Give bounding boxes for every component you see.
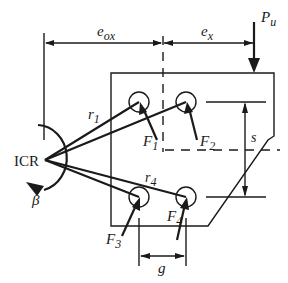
force-f2-line [189, 108, 197, 140]
eox-arrow-right-icon [153, 40, 162, 46]
eox-arrow-left-icon [45, 40, 54, 46]
ex-arrow-right-icon [244, 40, 253, 46]
f4-label: F4 [166, 208, 182, 228]
g-label: g [158, 260, 166, 276]
eox-label: eox [97, 23, 116, 43]
f3-label: F3 [105, 231, 121, 251]
ex-arrow-left-icon [164, 40, 173, 46]
diagram-canvas: eox ex Pu r1 r4 ICR β F1 F2 F3 F4 s [0, 0, 288, 283]
g-arrow-left-icon [140, 253, 150, 259]
ex-label: ex [201, 23, 214, 43]
pu-label: Pu [260, 9, 276, 29]
icr-label: ICR [14, 153, 39, 169]
beta-label: β [31, 192, 40, 208]
load-arrow-head-icon [248, 58, 260, 73]
s-arrow-bottom-icon [242, 186, 248, 197]
s-arrow-top-icon [242, 102, 248, 113]
force-f2-arrow-icon [184, 102, 193, 114]
s-label: s [251, 130, 257, 145]
force-f4-arrow-icon [180, 197, 189, 210]
r1-label: r1 [88, 106, 100, 126]
g-arrow-right-icon [175, 253, 185, 259]
bolt-group-diagram: eox ex Pu r1 r4 ICR β F1 F2 F3 F4 s [0, 0, 288, 283]
